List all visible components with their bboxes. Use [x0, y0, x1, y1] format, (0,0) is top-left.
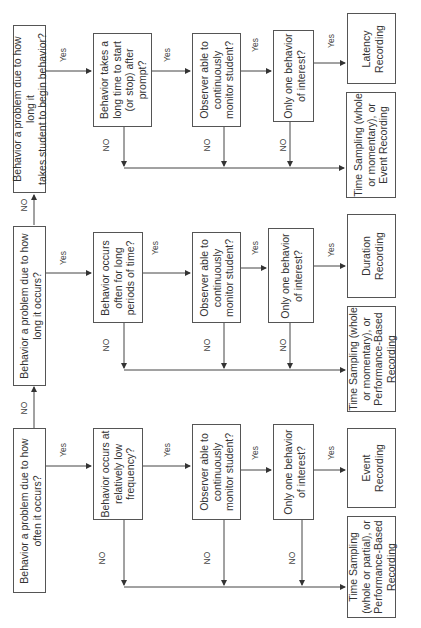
- no-label: NO: [202, 552, 212, 565]
- no-label: NO: [202, 139, 212, 152]
- duration-q2-box: Behavior occurs often for long periods o…: [93, 232, 143, 323]
- no-label: NO: [101, 139, 111, 152]
- latency-q3-box: Observer able to continuously monitor st…: [192, 33, 241, 127]
- yes-label: Yes: [150, 241, 160, 255]
- no-label: NO: [278, 339, 288, 352]
- duration-q4-box: Only one behavior of interest?: [268, 228, 314, 323]
- yes-label: Yes: [250, 38, 260, 52]
- no-label: NO: [19, 402, 29, 415]
- yes-label: Yes: [326, 446, 336, 460]
- yes-label: Yes: [58, 251, 68, 265]
- event-recording-result: Event Recording: [347, 428, 396, 508]
- duration-alt-result: Time Sampling (whole or momentary), or P…: [347, 306, 396, 412]
- no-label: NO: [278, 139, 288, 152]
- yes-label: Yes: [58, 443, 68, 457]
- duration-entry-question: Behavior a problem due to how long it oc…: [13, 226, 46, 386]
- yes-label: Yes: [58, 48, 68, 62]
- frequency-q4-box: Only one behavior of interest?: [273, 424, 314, 520]
- frequency-entry-question: Behavior a problem due to how often it o…: [13, 428, 46, 593]
- no-label: NO: [101, 339, 111, 352]
- no-label: NO: [202, 339, 212, 352]
- latency-recording-result: Latency Recording: [347, 13, 396, 84]
- latency-q2-box: Behavior takes a long time to start (or …: [93, 33, 152, 127]
- latency-q4-box: Only one behavior of interest?: [273, 30, 314, 122]
- duration-q3-box: Observer able to continuously monitor st…: [192, 232, 241, 323]
- yes-label: Yes: [326, 243, 336, 257]
- yes-label: Yes: [162, 443, 172, 457]
- no-label: NO: [19, 199, 29, 212]
- frequency-q2-box: Behavior occurs at relatively low freque…: [93, 428, 143, 520]
- frequency-q3-box: Observer able to continuously monitor st…: [192, 424, 241, 520]
- latency-entry-question: Behavior a problem due to how long it ta…: [13, 25, 46, 193]
- flowchart: Behavior a problem due to how long it ta…: [0, 0, 421, 628]
- no-label: NO: [287, 552, 297, 565]
- yes-label: Yes: [250, 241, 260, 255]
- duration-recording-result: Duration Recording: [347, 214, 396, 298]
- yes-label: Yes: [162, 48, 172, 62]
- no-label: NO: [97, 552, 107, 565]
- latency-alt-result: Time Sampling (whole or momentary), or E…: [346, 92, 396, 198]
- frequency-alt-result: Time Sampling (whole or partial), or Per…: [347, 516, 396, 618]
- yes-label: Yes: [326, 34, 336, 48]
- yes-label: Yes: [250, 446, 260, 460]
